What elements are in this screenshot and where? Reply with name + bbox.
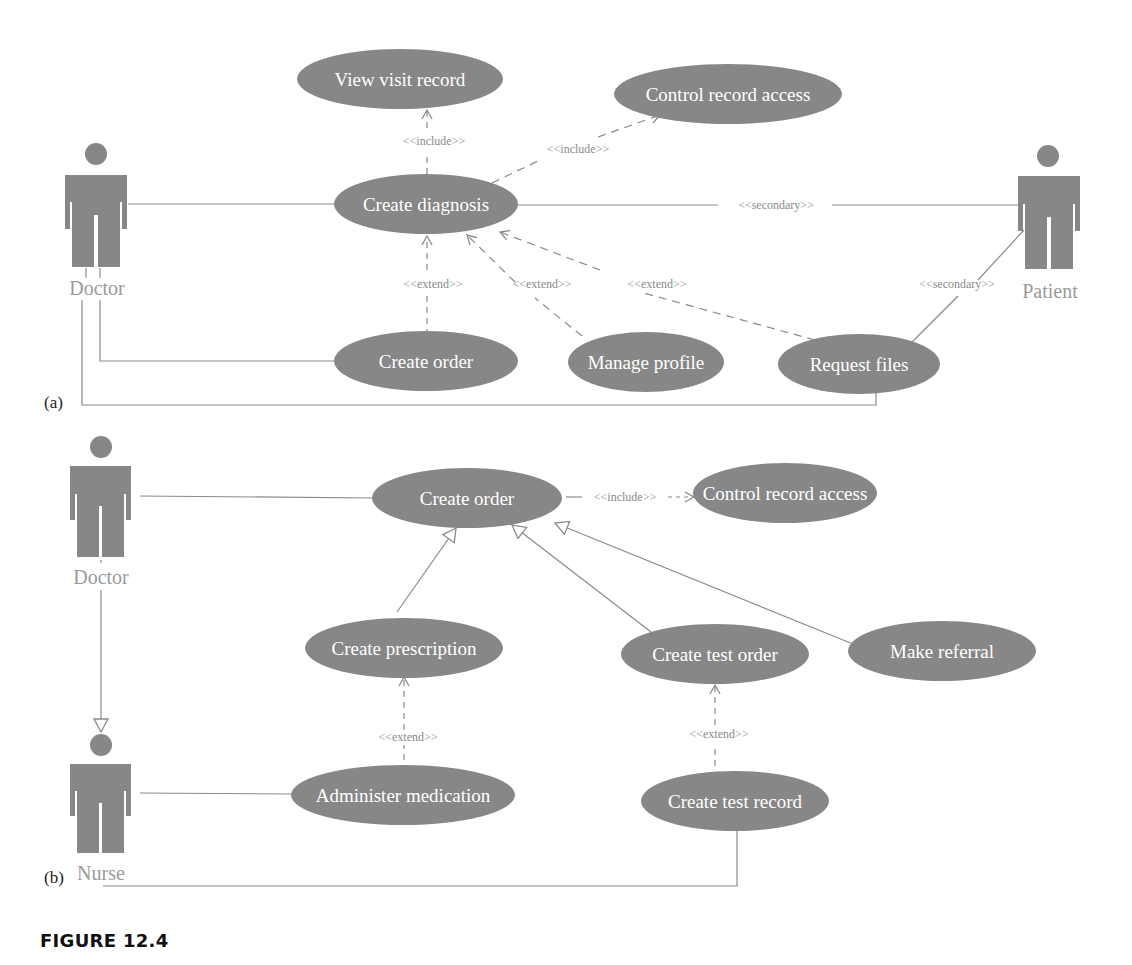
actor-label: Doctor [73, 566, 129, 588]
actor-icon [70, 734, 131, 853]
actor-label: Nurse [77, 862, 125, 884]
actor-doctor-a[interactable]: Doctor [65, 143, 127, 299]
svg-text:Create order: Create order [420, 488, 515, 509]
actor-label: Doctor [69, 277, 125, 299]
include-control-arrow [598, 115, 660, 137]
actor-icon [65, 143, 127, 267]
svg-text:Control record access: Control record access [646, 84, 811, 105]
secondary-label: <<secondary>> [738, 198, 814, 212]
include-label: <<include>> [547, 142, 610, 156]
usecase-create-order[interactable]: Create order [334, 331, 518, 391]
usecase-control-record-access-b[interactable]: Control record access [693, 463, 877, 523]
extend-label: <<extend>> [403, 277, 462, 291]
actor-patient[interactable]: Patient [1018, 145, 1080, 302]
usecase-request-files[interactable]: Request files [778, 334, 940, 394]
extend-label: <<extend>> [689, 727, 748, 741]
nurse-test-record-association [103, 830, 737, 886]
svg-text:Control record access: Control record access [703, 483, 868, 504]
files-patient-secondary-line [978, 230, 1024, 280]
doctor-order-association [140, 496, 374, 498]
actor-nurse[interactable]: Nurse [70, 734, 131, 884]
svg-text:Create order: Create order [379, 351, 474, 372]
extend-label: <<extend>> [512, 277, 571, 291]
doctor-order-association [100, 300, 334, 361]
usecase-view-visit-record[interactable]: View visit record [297, 49, 503, 109]
svg-text:Manage profile: Manage profile [588, 352, 705, 373]
svg-text:View visit record: View visit record [335, 69, 466, 90]
panel-label: (a) [44, 393, 63, 412]
usecase-create-order-b[interactable]: Create order [372, 468, 562, 528]
panel-a: <<include>> <<include>> <<secondary>> <<… [44, 49, 1080, 412]
actor-icon [70, 436, 131, 557]
generalization-prescription [397, 528, 456, 612]
extend-label: <<extend>> [378, 730, 437, 744]
actor-label: Patient [1022, 280, 1078, 302]
nurse-medication-association [140, 793, 293, 794]
svg-text:Make referral: Make referral [890, 641, 994, 662]
extend-label: <<extend>> [627, 277, 686, 291]
actor-doctor-b[interactable]: Doctor [70, 436, 131, 588]
secondary-label: <<secondary>> [919, 277, 995, 291]
usecase-administer-medication[interactable]: Administer medication [291, 765, 515, 825]
extend-profile-arrow [467, 235, 515, 282]
svg-text:Administer medication: Administer medication [316, 785, 491, 806]
generalization-test-order [512, 525, 651, 632]
usecase-create-diagnosis[interactable]: Create diagnosis [334, 174, 518, 234]
panel-b: <<include>> <<extend>> <<extend>> Create… [44, 436, 1036, 887]
panel-label: (b) [44, 868, 64, 887]
usecase-manage-profile[interactable]: Manage profile [568, 332, 724, 392]
include-label: <<include>> [403, 134, 466, 148]
usecase-control-record-access[interactable]: Control record access [614, 64, 842, 124]
svg-text:Create test record: Create test record [668, 791, 802, 812]
svg-text:Create prescription: Create prescription [331, 638, 477, 659]
usecase-create-test-record[interactable]: Create test record [641, 771, 829, 831]
figure-caption: FIGURE 12.4 [40, 930, 169, 951]
usecase-create-test-order[interactable]: Create test order [621, 624, 809, 684]
use-case-diagram: <<include>> <<include>> <<secondary>> <<… [0, 0, 1132, 965]
include-label: <<include>> [594, 490, 657, 504]
svg-text:Create diagnosis: Create diagnosis [363, 194, 489, 215]
usecase-create-prescription[interactable]: Create prescription [305, 618, 503, 678]
svg-text:Request files: Request files [810, 354, 909, 375]
actor-icon [1018, 145, 1080, 269]
usecase-make-referral[interactable]: Make referral [848, 621, 1036, 681]
extend-files-arrow [500, 232, 600, 270]
svg-text:Create test order: Create test order [652, 644, 778, 665]
